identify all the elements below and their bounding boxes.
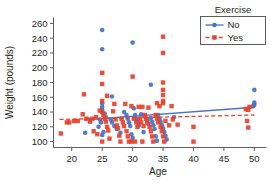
data-point [123, 102, 127, 106]
data-point [110, 94, 115, 99]
data-point [106, 128, 110, 132]
data-point [141, 130, 146, 135]
data-point [128, 124, 133, 129]
data-point [133, 139, 137, 143]
x-tick-label: 45 [219, 153, 230, 164]
data-point [107, 136, 111, 140]
data-point [100, 71, 104, 75]
data-point [163, 119, 167, 123]
data-point [150, 134, 154, 138]
data-point [118, 139, 122, 143]
data-point [149, 82, 154, 87]
chart-canvas: 1001201401601802002202402602025303540455… [0, 0, 270, 191]
data-point [161, 35, 165, 39]
data-point [130, 74, 134, 78]
data-point [246, 125, 250, 129]
data-point [157, 104, 161, 108]
y-tick-label: 140 [32, 106, 48, 117]
data-point [245, 119, 249, 123]
legend-key-marker-no [212, 23, 217, 28]
data-point [161, 93, 165, 97]
data-point [96, 125, 101, 130]
data-point [112, 102, 116, 106]
x-tick-label: 50 [249, 153, 260, 164]
data-point [117, 133, 121, 137]
data-point [130, 40, 135, 45]
data-point [116, 126, 120, 130]
legend-label-yes: Yes [228, 32, 244, 43]
data-point [129, 104, 133, 108]
series-yes [59, 35, 255, 144]
x-tick-label: 30 [127, 153, 138, 164]
y-tick-label: 260 [32, 18, 48, 29]
data-point [162, 139, 166, 143]
data-point [122, 124, 126, 128]
data-point [124, 129, 128, 133]
y-axis-title: Weight (pounds) [4, 46, 15, 119]
data-point [146, 105, 150, 109]
y-tick-label: 120 [32, 121, 48, 132]
x-tick-label: 20 [66, 153, 77, 164]
data-point [82, 92, 86, 96]
data-point [151, 139, 155, 143]
x-axis-title: Age [149, 166, 167, 177]
data-point [156, 120, 160, 124]
data-point [171, 117, 175, 121]
data-point [100, 47, 105, 52]
scatter-plot-figure: 1001201401601802002202402602025303540455… [0, 0, 270, 191]
y-tick-label: 240 [32, 33, 48, 44]
data-point [104, 119, 108, 123]
y-tick-label: 180 [32, 77, 48, 88]
data-point [140, 105, 144, 109]
data-point [161, 88, 165, 92]
data-point [161, 51, 165, 55]
data-point [59, 131, 63, 135]
y-tick-label: 200 [32, 62, 48, 73]
data-point [191, 125, 195, 129]
x-tick-label: 25 [97, 153, 108, 164]
plot-area: 1001201401601802002202402602025303540455… [4, 4, 267, 177]
data-point [100, 133, 105, 138]
data-point [100, 28, 105, 33]
data-point [105, 94, 109, 98]
data-point [83, 130, 88, 135]
data-point [145, 120, 149, 124]
x-tick-label: 35 [158, 153, 169, 164]
legend-key-marker-yes [212, 35, 216, 39]
data-point [191, 139, 195, 143]
legend-label-no: No [228, 19, 240, 30]
data-point [149, 129, 153, 133]
data-point [247, 105, 251, 109]
data-point [100, 82, 104, 86]
data-point [67, 120, 71, 124]
data-point [81, 112, 85, 116]
legend-title: Exercise [215, 4, 251, 15]
data-point [161, 134, 165, 138]
data-point [135, 125, 139, 129]
data-point [111, 109, 115, 113]
data-point [158, 125, 162, 129]
data-point [175, 122, 179, 126]
data-point [167, 123, 171, 127]
y-tick-label: 220 [32, 47, 48, 58]
data-point [161, 80, 165, 84]
data-point [100, 139, 104, 143]
data-point [126, 134, 130, 138]
data-point [100, 99, 104, 103]
x-tick-label: 40 [188, 153, 199, 164]
y-tick-label: 100 [32, 136, 48, 147]
data-point [169, 104, 173, 108]
data-point [160, 129, 164, 133]
y-tick-label: 160 [32, 92, 48, 103]
data-point [140, 139, 144, 143]
data-point [252, 88, 257, 93]
data-point [147, 125, 151, 129]
data-point [95, 132, 99, 136]
